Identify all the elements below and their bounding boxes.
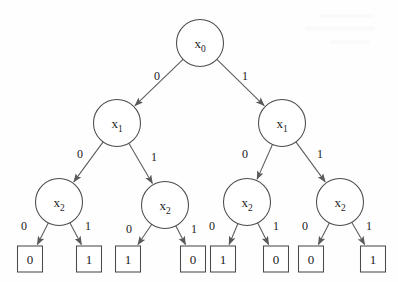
edge-label-n2b-to-l3: 1 (191, 222, 197, 236)
leaf-value-label: 1 (125, 252, 132, 267)
tree-edge-n1R-to-n2c (257, 144, 273, 180)
leaf-value-label: 1 (370, 252, 377, 267)
edge-label-n1R-to-n2c: 0 (242, 147, 248, 161)
tree-edge-n2c-to-l4 (229, 223, 238, 245)
leaf-value-label: 0 (190, 252, 197, 267)
leaf-value-label: 1 (220, 252, 227, 267)
decision-node-n1R[interactable]: x1 (259, 100, 306, 147)
terminal-leaf-l7[interactable]: 1 (361, 246, 386, 272)
terminal-leaf-l3[interactable]: 0 (181, 246, 206, 272)
edge-label-n2b-to-l2: 0 (126, 222, 132, 236)
decision-node-n2a[interactable]: x2 (36, 179, 83, 226)
edge-label-n2d-to-l7: 1 (366, 219, 372, 233)
node-variable-subscript: 2 (166, 206, 171, 216)
tree-edge-n2a-to-l1 (69, 222, 81, 245)
terminal-leaf-l2[interactable]: 1 (116, 246, 141, 272)
leaf-value-label: 0 (273, 252, 280, 267)
terminal-leaf-l6[interactable]: 0 (299, 246, 324, 272)
decision-node-n2c[interactable]: x2 (224, 179, 271, 226)
edge-label-n2c-to-l4: 0 (209, 219, 215, 233)
node-variable-subscript: 1 (283, 124, 288, 134)
terminal-leaf-l4[interactable]: 1 (211, 246, 236, 272)
tree-edge-n0-to-n1R (216, 59, 264, 106)
decision-node-n1L[interactable]: x1 (94, 100, 141, 147)
node-variable-subscript: 0 (201, 44, 206, 54)
nodes-layer: x0x1x1x2x2x2x2 (36, 20, 364, 229)
node-variable-subscript: 2 (248, 203, 253, 213)
terminal-leaf-l0[interactable]: 0 (18, 246, 43, 272)
edge-label-n1R-to-n2d: 1 (317, 147, 323, 161)
leaves-layer: 01101001 (18, 246, 386, 272)
edge-label-n0-to-n1L: 0 (154, 69, 160, 83)
edges-layer (37, 59, 364, 245)
tree-edge-n2d-to-l7 (351, 221, 364, 244)
edge-label-n1L-to-n2a: 0 (77, 147, 83, 161)
tree-edge-n2b-to-l3 (175, 225, 185, 245)
terminal-leaf-l5[interactable]: 0 (264, 246, 289, 272)
edge-label-n2c-to-l5: 1 (273, 219, 279, 233)
binary-decision-tree-diagram: x0x1x1x2x2x2x2 01101001 01010101010101 (0, 0, 398, 282)
edge-label-n2d-to-l6: 0 (302, 219, 308, 233)
decision-node-n0[interactable]: x0 (177, 20, 224, 67)
tree-edge-n2b-to-l2 (138, 224, 152, 245)
edge-label-n2a-to-l0: 0 (21, 219, 27, 233)
node-variable-subscript: 2 (60, 203, 65, 213)
decision-node-n2d[interactable]: x2 (317, 179, 364, 226)
tree-edge-n2c-to-l5 (257, 222, 268, 244)
leaf-value-label: 0 (27, 252, 34, 267)
tree-edge-n2d-to-l6 (318, 222, 329, 244)
leaf-value-label: 1 (86, 252, 93, 267)
decision-node-n2b[interactable]: x2 (142, 182, 189, 229)
terminal-leaf-l1[interactable]: 1 (77, 246, 102, 272)
leaf-value-label: 0 (308, 252, 315, 267)
node-variable-subscript: 2 (341, 203, 346, 213)
tree-edge-n1L-to-n2b (128, 142, 152, 183)
tree-canvas: x0x1x1x2x2x2x2 01101001 01010101010101 (0, 0, 398, 282)
node-variable-subscript: 1 (118, 124, 123, 134)
edge-label-n2a-to-l1: 1 (85, 219, 91, 233)
edge-label-n1L-to-n2b: 1 (151, 150, 157, 164)
tree-edge-n2a-to-l0 (37, 222, 48, 244)
edge-label-n0-to-n1R: 1 (242, 69, 248, 83)
